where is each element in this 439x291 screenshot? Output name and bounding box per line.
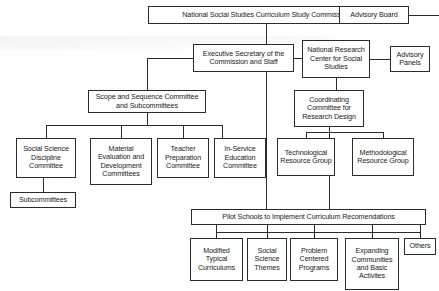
connector-drop-problem	[314, 225, 315, 238]
connector-research-center-down	[336, 78, 337, 90]
node-technological-resource-label: Technological Resource Group	[280, 149, 332, 166]
connector-research-center-to-advisory-panels	[370, 59, 390, 60]
node-coordinating-committee-label: Coordinating Committee for Research Desi…	[297, 96, 361, 121]
connector-scope-bottom-bus-left	[46, 125, 222, 126]
connector-exec-sec-left-stub	[147, 58, 193, 59]
node-research-center[interactable]: National Research Center for Social Stud…	[302, 40, 370, 78]
node-social-science-themes[interactable]: Social Science Themes	[247, 238, 287, 281]
node-material-evaluation[interactable]: Material Evaluation and Development Comm…	[90, 138, 152, 185]
connector-exec-sec-down-long	[266, 72, 267, 209]
node-problem-centered-programs[interactable]: Problem Centered Programs	[290, 238, 338, 281]
node-advisory-panels-label: Advisory Panels	[393, 51, 427, 68]
connector-exec-sec-to-research-center	[294, 58, 302, 59]
node-modified-typical-curriculums[interactable]: Modified Typical Curriculums	[190, 238, 243, 281]
connector-drop-in-service	[222, 125, 223, 138]
node-modified-typical-curriculums-label: Modified Typical Curriculums	[193, 247, 240, 272]
connector-drop-themes	[267, 225, 268, 238]
node-in-service-education[interactable]: In-Service Education Committee	[214, 138, 266, 178]
node-research-center-label: National Research Center for Social Stud…	[305, 46, 367, 71]
connector-drop-modified	[216, 225, 217, 238]
node-pilot-schools[interactable]: Pilot Schools to Implement Curriculum Re…	[191, 209, 426, 225]
connector-drop-others	[420, 225, 421, 238]
node-advisory-board-label: Advisory Board	[342, 11, 406, 19]
node-expanding-communities[interactable]: Expanding Communities and Basic Activite…	[345, 238, 399, 290]
connector-drop-social-science	[46, 125, 47, 138]
connector-social-science-to-subcommittees	[43, 178, 44, 192]
node-scope-sequence[interactable]: Scope and Sequence Committee and Subcomm…	[88, 90, 206, 113]
node-others[interactable]: Others	[404, 238, 436, 255]
connector-drop-material-eval	[121, 125, 122, 138]
node-pilot-schools-label: Pilot Schools to Implement Curriculum Re…	[194, 213, 423, 221]
node-subcommittees[interactable]: Subcommittees	[10, 192, 76, 208]
node-methodological-resource-label: Methodological Resource Group	[355, 149, 411, 166]
node-social-science-discipline[interactable]: Social Science Discipline Committee	[16, 138, 76, 178]
connector-coord-bottom-bus	[306, 132, 383, 133]
connector-drop-teacher-prep	[183, 125, 184, 138]
connector-scope-top-stem	[147, 80, 148, 90]
node-advisory-board[interactable]: Advisory Board	[339, 6, 409, 24]
connector-commission-down-stem	[266, 24, 267, 44]
node-executive-secretary[interactable]: Executive Secretary of the Commission an…	[193, 44, 294, 72]
node-social-science-themes-label: Social Science Themes	[250, 247, 284, 272]
node-teacher-preparation[interactable]: Teacher Preparation Committee	[157, 138, 209, 178]
node-expanding-communities-label: Expanding Communities and Basic Activite…	[348, 247, 396, 281]
node-coordinating-committee[interactable]: Coordinating Committee for Research Desi…	[294, 90, 364, 127]
node-advisory-panels[interactable]: Advisory Panels	[390, 46, 430, 72]
node-teacher-preparation-label: Teacher Preparation Committee	[160, 145, 206, 170]
node-executive-secretary-label: Executive Secretary of the Commission an…	[196, 50, 291, 67]
node-technological-resource[interactable]: Technological Resource Group	[277, 138, 335, 176]
node-subcommittees-label: Subcommittees	[13, 196, 73, 204]
connector-drop-expanding	[372, 225, 373, 238]
node-methodological-resource[interactable]: Methodological Resource Group	[352, 138, 414, 176]
node-in-service-education-label: In-Service Education Committee	[217, 145, 263, 170]
node-material-evaluation-label: Material Evaluation and Development Comm…	[93, 145, 149, 179]
node-problem-centered-programs-label: Problem Centered Programs	[293, 247, 335, 272]
node-scope-sequence-label: Scope and Sequence Committee and Subcomm…	[91, 93, 203, 110]
connector-scope-bottom-stem	[147, 113, 148, 125]
org-chart-canvas: National Social Studies Curriculum Study…	[0, 0, 439, 291]
node-social-science-discipline-label: Social Science Discipline Committee	[19, 145, 73, 170]
connector-pilot-bottom-bus	[216, 232, 420, 233]
node-others-label: Others	[407, 242, 433, 250]
